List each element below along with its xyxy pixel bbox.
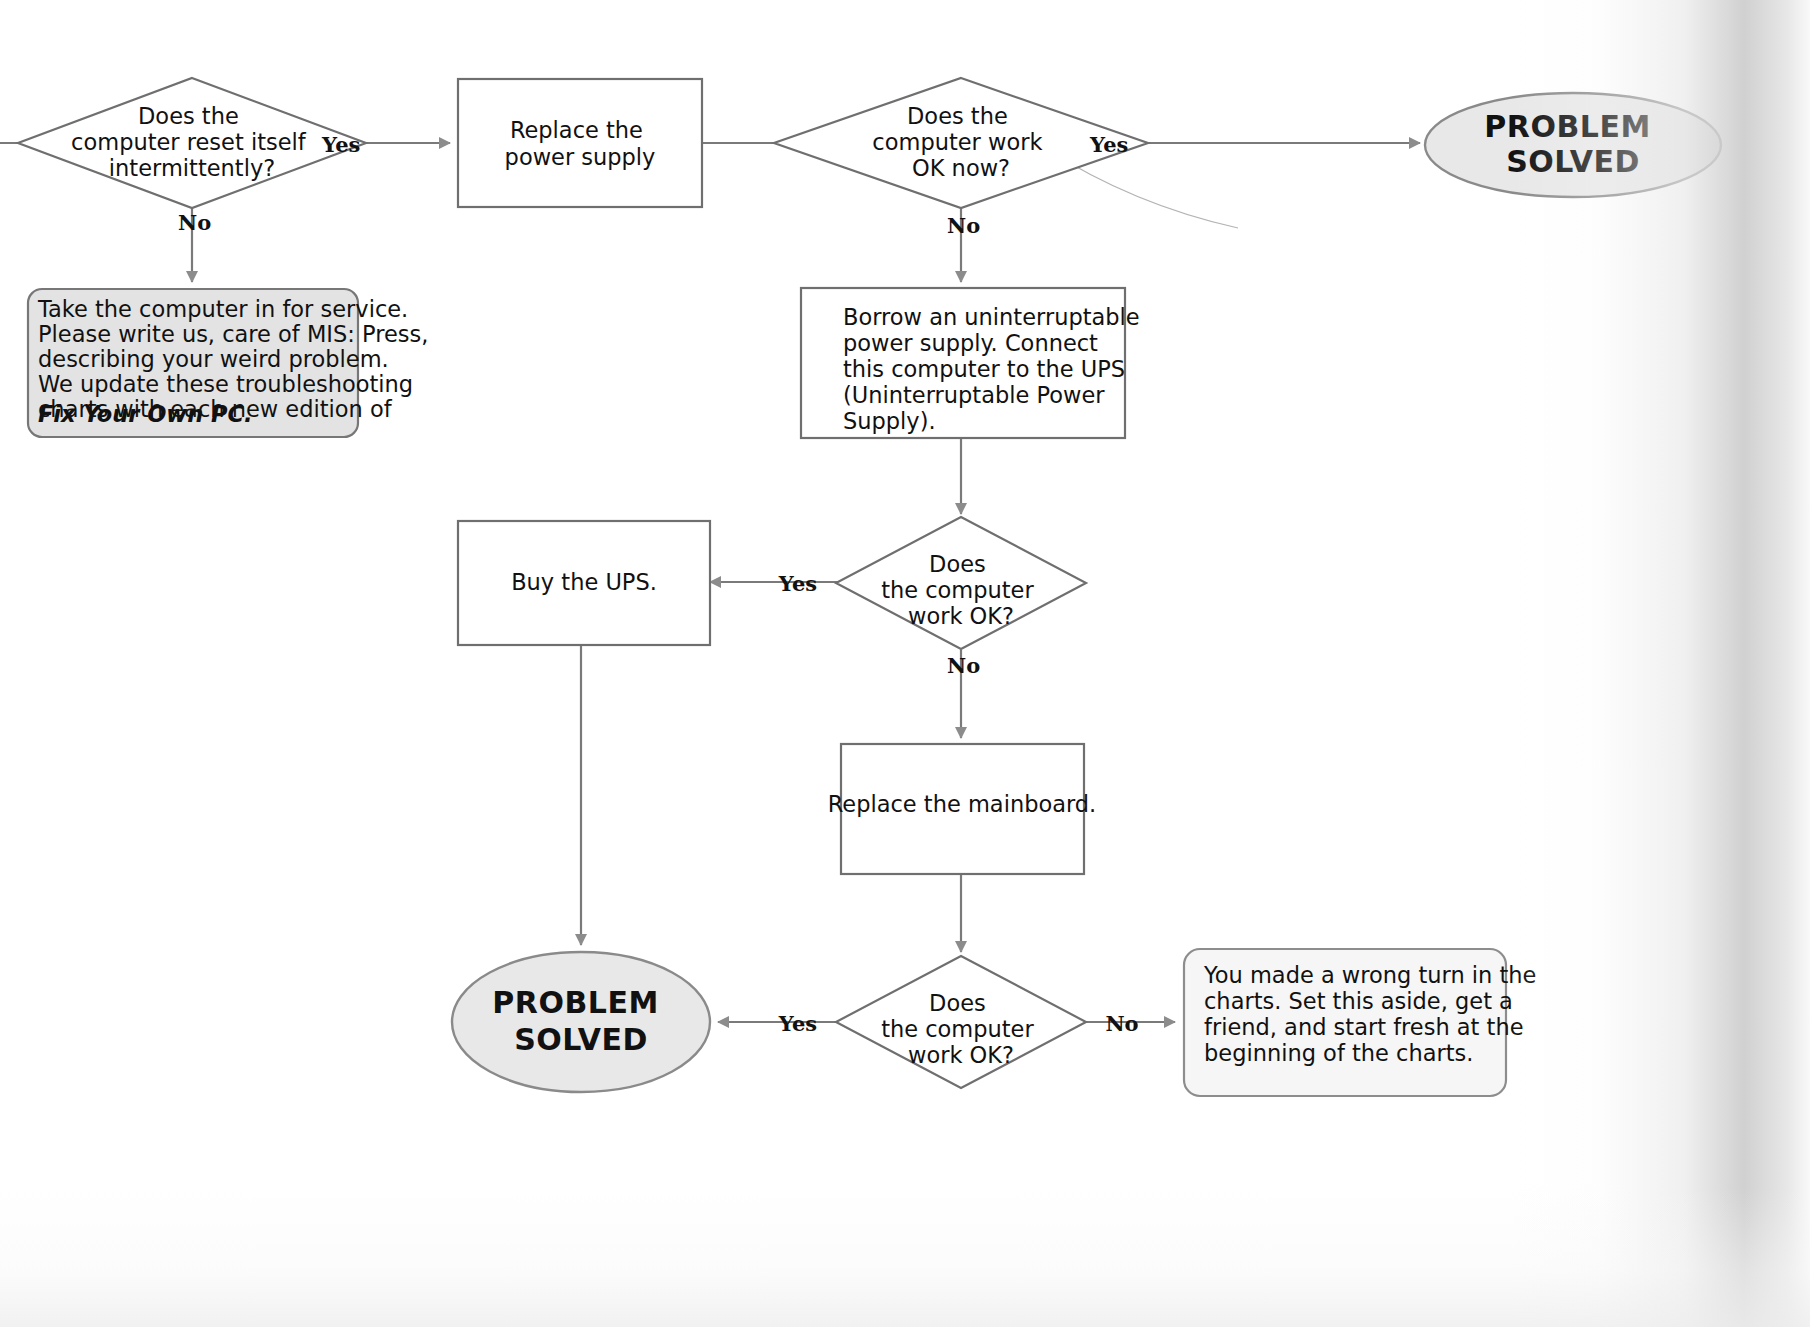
note-wrong-turn-line-2: charts. Set this aside, get a <box>1204 988 1513 1014</box>
decision-work-ok-bottom-line-3: work OK? <box>908 1042 1014 1068</box>
decision-reset-line-2: computer reset itself <box>71 129 307 155</box>
note-service-line-3: describing your weird problem. <box>38 346 389 372</box>
decision-work-ok-mid-line-3: work OK? <box>908 603 1014 629</box>
terminal-solved-top-line-2: SOLVED <box>1506 144 1640 179</box>
action-borrow-ups-line-4: (Uninterruptable Power <box>843 382 1105 408</box>
edge-label-reset-yes: Yes <box>321 132 360 157</box>
terminal-solved-top-line-1: PROBLEM <box>1484 109 1650 144</box>
svg-text:Replace the power supp: Replace the power supply <box>505 117 656 170</box>
edge-label-bottomok-yes: Yes <box>778 1011 817 1036</box>
action-buy-ups-line-1: Buy the UPS. <box>511 569 657 595</box>
edge-label-worknow-no: No <box>947 213 980 238</box>
flowchart-canvas: Does the computer reset itself intermitt… <box>0 0 1810 1327</box>
node-action-buy-ups[interactable]: Buy the UPS. <box>458 521 710 645</box>
note-wrong-turn-line-3: friend, and start fresh at the <box>1204 1014 1524 1040</box>
action-borrow-ups-line-5: Supply). <box>843 408 936 434</box>
note-wrong-turn-line-4: beginning of the charts. <box>1204 1040 1473 1066</box>
note-service-line-1: Take the computer in for service. <box>37 296 408 322</box>
action-replace-psu-line-1: Replace the <box>510 117 643 143</box>
node-action-borrow-ups[interactable]: Borrow an uninterruptable power supply. … <box>801 288 1147 438</box>
decision-work-ok-mid-line-2: the computer <box>881 577 1034 603</box>
decision-reset-line-1: Does the <box>138 103 239 129</box>
node-action-replace-mainboard[interactable]: Replace the mainboard. <box>828 744 1097 874</box>
action-replace-mainboard-line-1: Replace the mainboard. <box>828 791 1097 817</box>
node-action-replace-psu[interactable]: Replace the power supply <box>458 79 702 207</box>
node-note-wrong-turn[interactable]: You made a wrong turn in the charts. Set… <box>1184 949 1544 1096</box>
edge-label-midok-yes: Yes <box>778 571 817 596</box>
terminal-solved-bottom-line-1: PROBLEM <box>492 985 658 1020</box>
edge-label-worknow-yes: Yes <box>1089 132 1128 157</box>
edge-label-midok-no: No <box>947 653 980 678</box>
flowchart-page: Does the computer reset itself intermitt… <box>0 0 1810 1327</box>
note-wrong-turn-line-1: You made a wrong turn in the <box>1203 962 1536 988</box>
node-terminal-solved-top[interactable]: PROBLEM SOLVED <box>1425 93 1721 197</box>
node-decision-work-ok-bottom[interactable]: Does the computer work OK? <box>836 956 1086 1088</box>
terminal-solved-bottom-line-2: SOLVED <box>514 1022 648 1057</box>
action-borrow-ups-line-2: power supply. Connect <box>843 330 1098 356</box>
node-decision-work-ok-mid[interactable]: Does the computer work OK? <box>836 517 1086 649</box>
edge-label-reset-no: No <box>178 210 211 235</box>
decision-work-ok-bottom-line-2: the computer <box>881 1016 1034 1042</box>
decision-work-ok-bottom-line-1: Does <box>929 990 986 1016</box>
decision-work-ok-mid-line-1: Does <box>929 551 986 577</box>
svg-text:PROBLEM SOLVED: PROBLEM SOLVED <box>1484 109 1661 179</box>
note-service-emphasis: Fix Your Own PC. <box>38 401 253 427</box>
edge-label-bottomok-no: No <box>1105 1011 1138 1036</box>
decision-work-now-line-1: Does the <box>907 103 1008 129</box>
decision-work-now-line-3: OK now? <box>912 155 1010 181</box>
action-borrow-ups-line-1: Borrow an uninterruptable <box>843 304 1140 330</box>
decision-work-now-line-2: computer work <box>872 129 1042 155</box>
node-note-service[interactable]: Take the computer in for service. Please… <box>28 289 436 437</box>
note-service-line-4: We update these troubleshooting <box>38 371 413 397</box>
decision-reset-line-3: intermittently? <box>109 155 275 181</box>
action-replace-psu-line-2: power supply <box>505 144 656 170</box>
node-terminal-solved-bottom[interactable]: PROBLEM SOLVED <box>452 952 710 1092</box>
node-decision-reset[interactable]: Does the computer reset itself intermitt… <box>18 78 366 208</box>
action-borrow-ups-line-3: this computer to the UPS <box>843 356 1125 382</box>
note-service-line-2: Please write us, care of MIS: Press, <box>38 321 428 347</box>
